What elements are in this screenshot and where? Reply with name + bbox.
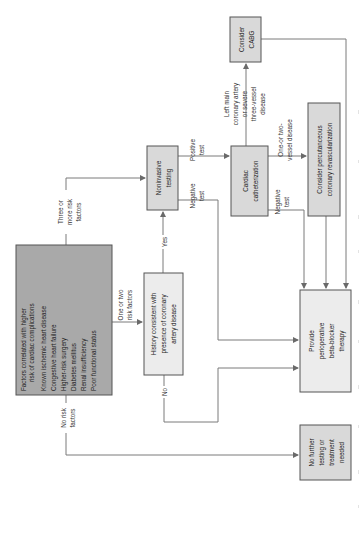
flowchart-canvas: Factors correlated with higher risk of c… [0, 0, 364, 541]
label-three-or-more: Three or more risk factors [55, 190, 87, 234]
edge-no-risk [66, 395, 298, 455]
label-yes: Yes [159, 235, 168, 249]
label-cath-negative: Negative test [274, 189, 290, 214]
beta-line: Provide [308, 330, 315, 352]
edge-nonin-negative [178, 200, 298, 340]
risk-factor-item: Poor functional status [90, 330, 97, 391]
beta-line: beta-blocker [328, 324, 335, 359]
svg-text:factors: factors [75, 203, 82, 222]
risk-factor-item: Congestive heart failure [50, 324, 58, 391]
svg-text:test: test [198, 145, 205, 155]
risk-factors-title-2: risk of cardiac complications [28, 303, 36, 382]
cabg-line: CABG [248, 30, 255, 48]
svg-text:or severe: or severe [241, 90, 248, 117]
edge-cath-negative [268, 210, 304, 288]
history-line: artery disease [170, 304, 178, 344]
svg-text:Positive: Positive [189, 138, 196, 161]
label-no-risk: No risk factors [59, 403, 79, 433]
no-further-line: needed [338, 441, 345, 463]
no-further-line: testing or [318, 440, 326, 466]
beta-line: therapy [338, 330, 346, 352]
consider-pci-box: Consider percutanceous coronary revascul… [308, 103, 340, 216]
cabg-line: Consider [238, 27, 245, 52]
risk-factor-item: Diabetes mellitus [70, 343, 77, 391]
history-line: History consistent with [150, 292, 158, 355]
svg-text:test: test [198, 191, 205, 201]
risk-factors-box: Factors correlated with higher risk of c… [16, 245, 112, 395]
svg-text:Left main: Left main [223, 91, 230, 117]
edge-no [164, 368, 298, 422]
pci-line: coronary revascularization [326, 122, 334, 196]
svg-text:coronary artery: coronary artery [232, 82, 240, 125]
svg-text:No risk: No risk [60, 407, 67, 427]
noninvasive-testing-box: Noninvasive testing [147, 146, 178, 210]
beta-line: perioperative [318, 322, 326, 359]
faint-caption-marks [358, 110, 359, 508]
label-nonin-positive: Positive test [189, 138, 205, 161]
no-further-testing-box: No further testing or treatment needed [300, 425, 351, 480]
noninvasive-line: Noninvasive [155, 160, 162, 195]
svg-text:factors: factors [69, 409, 76, 428]
risk-factors-title-1: Factors correlated with higher [20, 308, 28, 391]
cardiac-catheterization-box: Cardiac catheterization [231, 146, 268, 216]
svg-text:test: test [283, 197, 290, 207]
label-left-main: Left main coronary artery or severe thre… [223, 82, 266, 125]
consider-cabg-box: Consider CABG [230, 17, 261, 62]
svg-text:Yes: Yes [161, 237, 168, 247]
label-one-or-two: One or two risk factors [117, 289, 133, 320]
no-further-line: treatment [328, 439, 335, 466]
svg-text:more risk: more risk [66, 198, 73, 225]
no-further-line: No further [308, 439, 315, 467]
svg-text:Negative: Negative [274, 189, 282, 214]
label-one-two-vessel: One-or two- vessel disease [277, 119, 293, 161]
risk-factor-item: Renal insufficiency [80, 338, 88, 391]
cath-line: Cardiac [242, 170, 249, 192]
label-nonin-negative: Negative test [189, 183, 205, 208]
svg-text:One-or two-: One-or two- [277, 123, 284, 156]
svg-text:risk factors: risk factors [126, 290, 133, 320]
svg-text:disease: disease [259, 93, 266, 115]
svg-text:vessel disease: vessel disease [286, 119, 293, 161]
risk-factor-item: Known ischemic heart disease [40, 305, 47, 391]
pci-line: Consider percutanceous [316, 125, 324, 193]
svg-text:No: No [161, 387, 168, 396]
noninvasive-line: testing [165, 168, 173, 187]
svg-text:One or two: One or two [117, 289, 124, 320]
svg-text:Negative: Negative [189, 183, 197, 208]
risk-factor-item: Higher-risk surgery [60, 337, 68, 391]
beta-blocker-box: Provide perioperative beta-blocker thera… [300, 290, 351, 392]
label-no: No [159, 386, 168, 398]
svg-text:Three or: Three or [57, 200, 64, 224]
history-line: presence of coronary [160, 294, 168, 354]
cath-line: catheterization [252, 160, 259, 201]
history-box: History consistent with presence of coro… [144, 273, 183, 375]
svg-text:three-vessel: three-vessel [250, 87, 257, 121]
